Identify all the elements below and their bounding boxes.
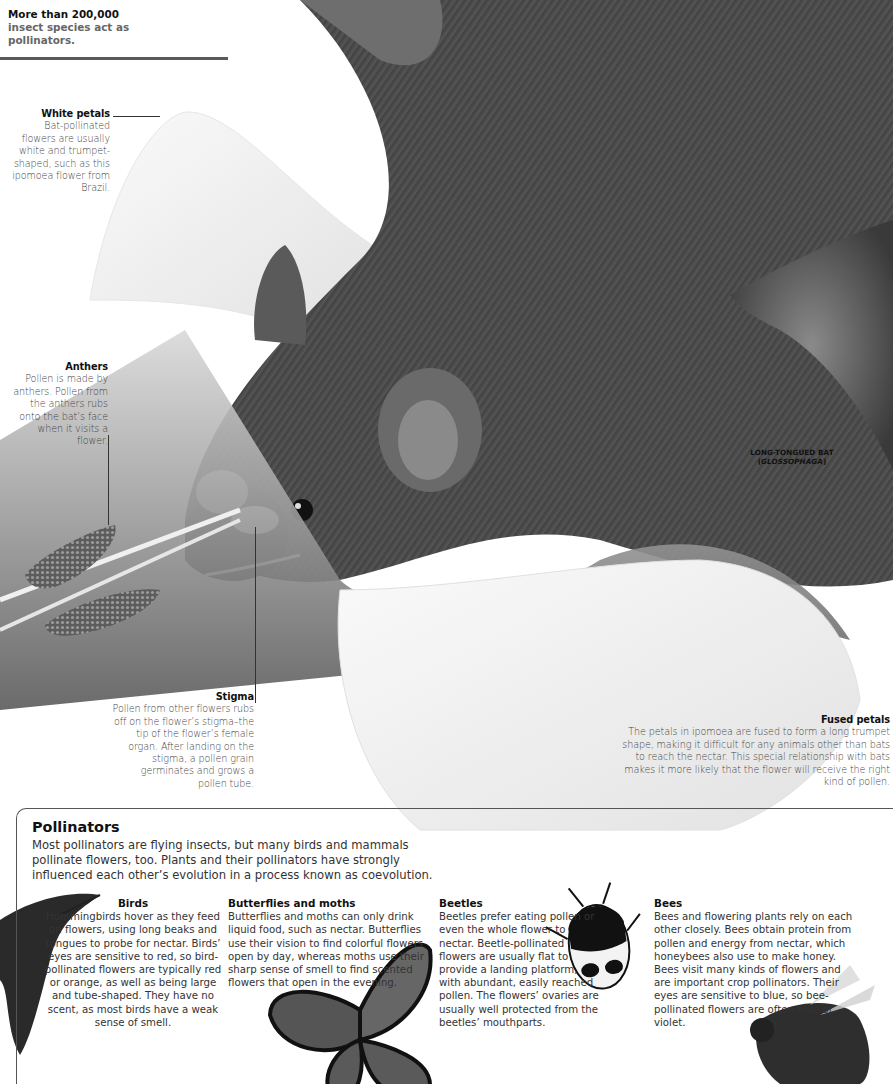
pollinators-intro: Most pollinators are flying insects, but…	[32, 838, 452, 883]
card-butterflies-moths: Butterflies and moths Butterflies and mo…	[228, 897, 428, 989]
callout-body: Pollen is made by anthers. Pollen from t…	[13, 373, 108, 446]
card-title: Butterflies and moths	[228, 897, 428, 910]
leader-line-anthers	[108, 435, 109, 525]
callout-body: The petals in ipomoea are fused to form …	[622, 726, 890, 787]
callout-title: White petals	[10, 108, 110, 120]
card-title: Beetles	[439, 897, 599, 910]
card-birds: Birds Hummingbirds hover as they feed on…	[44, 897, 222, 1029]
card-body: Butterflies and moths can only drink liq…	[228, 911, 424, 988]
species-genus: (GLOSSOPHAGA)	[712, 457, 872, 466]
species-label: LONG-TONGUED BAT (GLOSSOPHAGA)	[712, 448, 872, 466]
card-beetles: Beetles Beetles prefer eating pollen or …	[439, 897, 599, 1029]
card-title: Bees	[654, 897, 854, 910]
card-body: Hummingbirds hover as they feed on flowe…	[45, 911, 221, 1028]
callout-stigma: Stigma Pollen from other flowers rubs of…	[110, 691, 254, 790]
card-title: Birds	[44, 897, 222, 910]
intro-highlight: More than 200,000	[8, 8, 119, 20]
intro-divider	[0, 57, 228, 60]
leader-line-stigma	[255, 527, 256, 703]
callout-white-petals: White petals Bat-pollinated flowers are …	[10, 108, 110, 195]
species-common-name: LONG-TONGUED BAT	[712, 448, 872, 457]
callout-body: Pollen from other flowers rubs off on th…	[113, 703, 254, 788]
callout-anthers: Anthers Pollen is made by anthers. Polle…	[8, 361, 108, 448]
card-bees: Bees Bees and flowering plants rely on e…	[654, 897, 854, 1029]
intro-rest: insect species act as pollinators.	[8, 21, 129, 46]
leader-line-white-petals	[113, 116, 160, 117]
pollinators-heading: Pollinators	[32, 819, 120, 835]
callout-fused-petals: Fused petals The petals in ipomoea are f…	[612, 714, 890, 788]
intro-fact: More than 200,000 insect species act as …	[8, 8, 148, 47]
callout-title: Fused petals	[612, 714, 890, 726]
callout-body: Bat-pollinated flowers are usually white…	[12, 120, 110, 193]
callout-title: Stigma	[110, 691, 254, 703]
card-body: Beetles prefer eating pollen or even the…	[439, 911, 599, 1028]
callout-title: Anthers	[8, 361, 108, 373]
card-body: Bees and flowering plants rely on each o…	[654, 911, 852, 1028]
